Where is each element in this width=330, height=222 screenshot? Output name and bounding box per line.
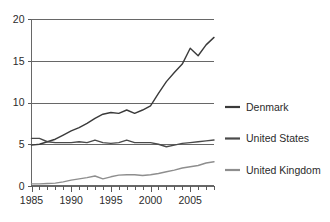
x-tick-label-1990: 1990: [59, 194, 83, 206]
legend-label: Denmark: [246, 101, 289, 113]
y-tick-label-20: 20: [13, 13, 25, 25]
y-tick-label-15: 15: [13, 55, 25, 67]
x-tick-label-1995: 1995: [99, 194, 123, 206]
x-tick-label-2005: 2005: [179, 194, 203, 206]
y-tick-label-0: 0: [19, 180, 25, 192]
legend-label: United Kingdom: [246, 164, 321, 176]
x-tick-label-2000: 2000: [139, 194, 163, 206]
y-tick-label-5: 5: [19, 138, 25, 150]
chart-canvas: 05101520 19851990199520002005 DenmarkUni…: [0, 0, 330, 222]
legend-label: United States: [246, 132, 309, 144]
x-tick-label-1985: 1985: [20, 194, 44, 206]
line-chart: 05101520 19851990199520002005 DenmarkUni…: [0, 0, 330, 222]
y-tick-label-10: 10: [13, 96, 25, 108]
